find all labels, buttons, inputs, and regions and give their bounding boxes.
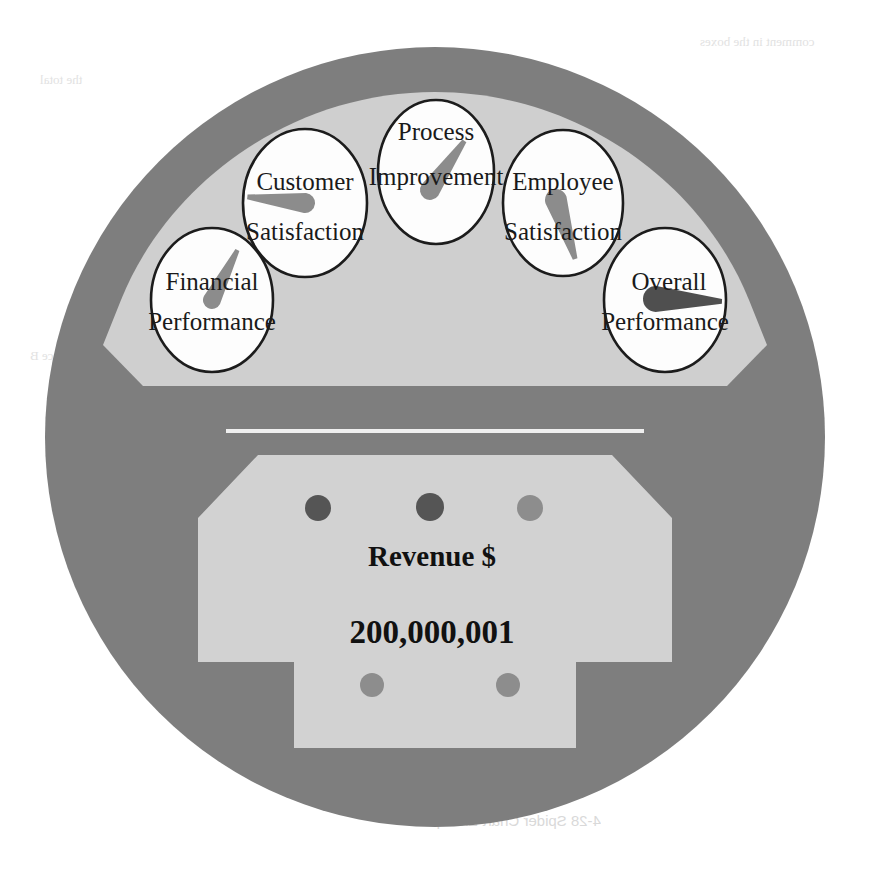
gauge-label-line2: Performance xyxy=(148,308,276,335)
gauge-label-line2: Satisfaction xyxy=(504,218,623,245)
gauge-label-line1: Employee xyxy=(512,168,613,195)
figure-canvas: comment in the boxes the total reference… xyxy=(0,0,870,876)
gauge-overall-performance[interactable]: Overall Performance xyxy=(601,228,729,372)
gauge-label-line2: Improvement xyxy=(369,163,504,190)
gauge-customer-satisfaction[interactable]: Customer Satisfaction xyxy=(243,129,367,277)
readout-value: 200,000,001 xyxy=(350,614,515,650)
gauge-dashboard-diagram: Financial Performance Customer Satisfact… xyxy=(0,0,870,876)
indicator-dot-bottom-2[interactable] xyxy=(496,673,520,697)
indicator-dot-top-2[interactable] xyxy=(416,493,444,521)
indicator-dot-top-3[interactable] xyxy=(517,495,543,521)
gauge-label-line2: Performance xyxy=(601,308,729,335)
gauge-label-line1: Customer xyxy=(256,168,354,195)
gauge-label-line2: Satisfaction xyxy=(246,218,365,245)
gauge-label-line1: Process xyxy=(398,118,474,145)
divider-line xyxy=(226,429,644,433)
indicator-dot-bottom-1[interactable] xyxy=(360,673,384,697)
gauge-label-line1: Overall xyxy=(632,268,707,295)
readout-title: Revenue $ xyxy=(368,540,496,572)
gauge-employee-satisfaction[interactable]: Employee Satisfaction xyxy=(503,130,623,276)
indicator-dot-top-1[interactable] xyxy=(305,495,331,521)
gauge-label-line1: Financial xyxy=(165,268,258,295)
